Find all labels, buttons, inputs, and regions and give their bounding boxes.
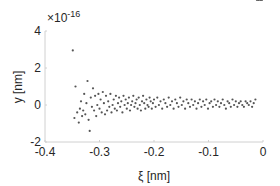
data-point: [195, 108, 197, 110]
data-point: [243, 106, 245, 108]
data-point: [76, 111, 78, 113]
data-point: [158, 104, 160, 106]
data-point: [248, 104, 250, 106]
data-point: [114, 108, 116, 110]
data-point: [166, 106, 168, 108]
data-point: [100, 98, 102, 100]
data-point: [187, 102, 189, 104]
data-point: [236, 106, 238, 108]
data-point: [228, 102, 230, 104]
data-point: [202, 100, 204, 102]
x-tick-label: 0: [260, 145, 267, 159]
y-tick-label: 0: [34, 98, 41, 112]
data-point: [197, 102, 199, 104]
data-point: [89, 130, 91, 132]
data-point: [222, 98, 224, 100]
data-point: [251, 106, 253, 108]
data-point: [78, 122, 80, 124]
data-point: [155, 106, 157, 108]
data-point: [246, 102, 248, 104]
data-point: [169, 104, 171, 106]
y-multiplier-exponent: -16: [67, 9, 80, 19]
data-point: [121, 111, 123, 113]
data-point: [133, 106, 135, 108]
data-point: [142, 95, 144, 97]
data-point: [156, 97, 158, 99]
data-point: [179, 97, 181, 99]
data-point: [134, 102, 136, 104]
data-point: [118, 97, 120, 99]
scatter-chart: -2024 -0.4-0.3-0.2-0.10 ×10-16 ξ [nm] y …: [0, 0, 280, 186]
data-point: [210, 100, 212, 102]
data-point: [116, 109, 118, 111]
data-point: [173, 108, 175, 110]
x-axis-label: ξ [nm]: [138, 169, 170, 183]
data-point: [84, 113, 86, 115]
data-point: [145, 98, 147, 100]
data-point: [168, 97, 170, 99]
y-tick-label: 4: [34, 24, 41, 38]
data-point: [191, 98, 193, 100]
data-point: [101, 111, 103, 113]
data-point: [85, 102, 87, 104]
data-point: [112, 104, 114, 106]
data-point: [126, 108, 128, 110]
data-point: [90, 97, 92, 99]
data-point: [209, 102, 211, 104]
data-point: [127, 102, 129, 104]
data-point: [194, 100, 196, 102]
data-point: [72, 49, 74, 51]
data-point: [129, 109, 131, 111]
data-point: [215, 104, 217, 106]
data-point: [176, 102, 178, 104]
data-point: [86, 80, 88, 82]
data-point: [120, 100, 122, 102]
data-point: [192, 104, 194, 106]
data-point: [159, 100, 161, 102]
data-point: [253, 102, 255, 104]
data-point: [207, 108, 209, 110]
data-point: [148, 106, 150, 108]
data-point: [205, 98, 207, 100]
data-point: [141, 100, 143, 102]
data-point: [200, 106, 202, 108]
data-point: [230, 106, 232, 108]
data-point: [163, 98, 165, 100]
x-tick-label: -0.4: [35, 145, 56, 159]
data-point: [186, 98, 188, 100]
data-point: [79, 108, 81, 110]
data-point: [217, 100, 219, 102]
data-point: [103, 102, 105, 104]
data-point: [213, 98, 215, 100]
data-point: [105, 95, 107, 97]
data-point: [184, 108, 186, 110]
data-point: [153, 98, 155, 100]
data-point: [140, 109, 142, 111]
data-point: [233, 104, 235, 106]
data-point: [92, 87, 94, 89]
data-point: [151, 108, 153, 110]
data-point: [235, 100, 237, 102]
data-point: [164, 102, 166, 104]
data-point: [83, 93, 85, 95]
data-point: [223, 104, 225, 106]
data-point: [189, 106, 191, 108]
data-point: [254, 98, 256, 100]
data-point: [124, 104, 126, 106]
data-point: [128, 97, 130, 99]
data-point: [212, 106, 214, 108]
data-point: [182, 100, 184, 102]
data-point: [177, 106, 179, 108]
data-point: [152, 102, 154, 104]
data-point: [109, 93, 111, 95]
data-point: [122, 95, 124, 97]
data-point: [199, 98, 201, 100]
data-point: [91, 106, 93, 108]
data-point: [143, 102, 145, 104]
data-points: [72, 0, 263, 132]
data-point: [204, 104, 206, 106]
data-point: [238, 102, 240, 104]
data-point: [181, 104, 183, 106]
data-point: [231, 98, 233, 100]
data-point: [98, 108, 100, 110]
